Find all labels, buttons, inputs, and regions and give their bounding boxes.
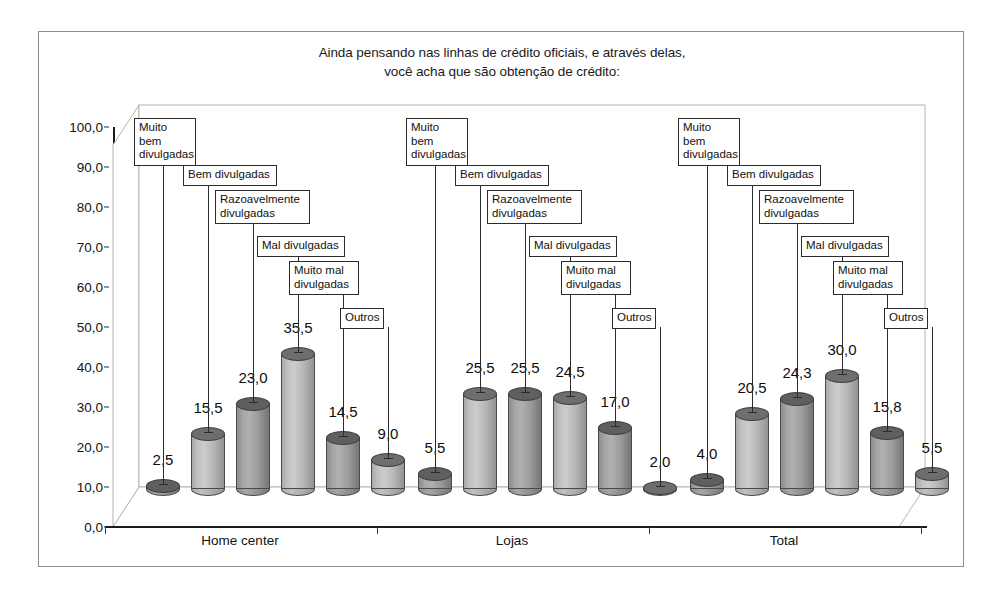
callout-leader-cap [703, 478, 712, 479]
series-callout-label: Bem divulgadas [455, 165, 549, 186]
y-axis-tick-mark [104, 287, 109, 288]
y-axis-tick-mark [104, 167, 109, 168]
chart-title-line-1: Ainda pensando nas linhas de crédito ofi… [0, 43, 1004, 62]
chart-title: Ainda pensando nas linhas de crédito ofi… [0, 43, 1004, 81]
callout-leader-line [752, 184, 753, 412]
callout-leader-cap [611, 426, 620, 427]
callout-leader-line [253, 222, 254, 402]
x-axis-tick-mark [921, 527, 922, 534]
callout-leader-line [660, 327, 661, 486]
y-axis-tick-mark [104, 247, 109, 248]
callout-leader-line [163, 150, 164, 484]
series-callout-label: Mal divulgadas [801, 236, 889, 257]
bar-body [236, 404, 270, 489]
callout-leader-cap [159, 484, 168, 485]
y-axis-tick-label: 100,0 [69, 120, 103, 135]
y-axis-tick-label: 10,0 [77, 480, 103, 495]
series-callout-label: Razoavelmente divulgadas [215, 190, 310, 224]
bar-body [598, 428, 632, 489]
callout-leader-cap [249, 402, 258, 403]
y-axis-tick-label: 60,0 [77, 280, 103, 295]
bar-cylinder [281, 347, 315, 489]
callout-leader-cap [431, 472, 440, 473]
bar-cylinder [870, 426, 904, 489]
bar-body [780, 399, 814, 489]
callout-leader-cap [294, 352, 303, 353]
bar-body [825, 376, 859, 489]
y-axis-tick-label: 80,0 [77, 200, 103, 215]
callout-leader-cap [521, 392, 530, 393]
y-axis-tick-mark [104, 327, 109, 328]
bar-body [326, 438, 360, 489]
bar-body [281, 354, 315, 489]
callout-leader-line [707, 150, 708, 478]
series-callout-label: Muito mal divulgadas [561, 261, 631, 295]
series-callout-label: Bem divulgadas [183, 165, 277, 186]
x-axis-tick-mark [649, 527, 650, 534]
y-axis-tick-mark [104, 407, 109, 408]
bar-body [870, 433, 904, 489]
callout-leader-cap [748, 412, 757, 413]
series-callout-label: Outros [340, 308, 384, 329]
callout-leader-cap [204, 432, 213, 433]
callout-leader-line [435, 150, 436, 472]
y-axis-tick-mark [104, 207, 109, 208]
series-callout-label: Bem divulgadas [727, 165, 821, 186]
bar-cylinder [825, 369, 859, 489]
y-axis-tick-mark [104, 487, 109, 488]
callout-leader-cap [883, 431, 892, 432]
bar-cylinder [463, 387, 497, 489]
y-axis-tick-mark [104, 127, 109, 128]
bar-cylinder [735, 407, 769, 489]
y-axis-tick-mark [104, 447, 109, 448]
callout-leader-cap [928, 472, 937, 473]
series-callout-label: Muito bem divulgadas [406, 118, 468, 166]
callout-leader-cap [384, 458, 393, 459]
y-axis-tick-label: 30,0 [77, 400, 103, 415]
y-axis-tick-label: 50,0 [77, 320, 103, 335]
series-callout-label: Razoavelmente divulgadas [487, 190, 582, 224]
callout-leader-cap [793, 397, 802, 398]
bar-body [191, 434, 225, 489]
bar-cylinder [191, 427, 225, 489]
chart-screenshot: Ainda pensando nas linhas de crédito ofi… [0, 0, 1004, 599]
bar-cylinder [598, 421, 632, 489]
series-callout-label: Outros [612, 308, 656, 329]
y-axis-tick-label: 90,0 [77, 160, 103, 175]
x-axis-tick-mark [377, 527, 378, 534]
bar-body [735, 414, 769, 489]
callout-leader-cap [566, 396, 575, 397]
bar-body [463, 394, 497, 489]
x-axis-category-label: Home center [201, 533, 278, 548]
bar-body [553, 398, 587, 489]
callout-leader-line [932, 327, 933, 472]
series-callout-label: Muito bem divulgadas [678, 118, 740, 166]
series-callout-label: Muito bem divulgadas [134, 118, 196, 166]
y-axis-tick-labels: 0,010,020,030,040,050,060,070,080,090,01… [47, 123, 109, 529]
callout-leader-line [797, 222, 798, 397]
callout-leader-line [480, 184, 481, 392]
y-axis-tick-mark [104, 367, 109, 368]
chart-title-line-2: você acha que são obtenção de crédito: [0, 62, 1004, 81]
bar-cylinder [553, 391, 587, 489]
series-callout-label: Mal divulgadas [529, 236, 617, 257]
bar-cylinder [508, 387, 542, 489]
x-axis-category-label: Lojas [496, 533, 528, 548]
callout-leader-line [388, 327, 389, 458]
series-callout-label: Muito mal divulgadas [833, 261, 903, 295]
callout-leader-cap [339, 436, 348, 437]
callout-leader-cap [656, 486, 665, 487]
series-callout-label: Mal divulgadas [257, 236, 345, 257]
bar-cylinder [780, 392, 814, 489]
series-callout-label: Razoavelmente divulgadas [759, 190, 854, 224]
callout-leader-cap [838, 374, 847, 375]
x-axis-line [105, 526, 927, 528]
x-axis-tick-mark [105, 527, 106, 534]
callout-leader-line [208, 184, 209, 432]
series-callout-label: Outros [884, 308, 928, 329]
callout-leader-line [525, 222, 526, 392]
bar-cylinder [326, 431, 360, 489]
bar-body [508, 394, 542, 489]
x-axis-category-label: Total [770, 533, 799, 548]
y-axis-tick-label: 20,0 [77, 440, 103, 455]
